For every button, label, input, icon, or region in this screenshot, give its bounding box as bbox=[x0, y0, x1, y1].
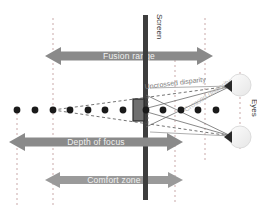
stereoscopic-diagram: Fusion range Screen Uncrossed disparity … bbox=[0, 0, 257, 212]
fusion-range-bar: Fusion range bbox=[45, 47, 213, 65]
eye-top bbox=[229, 74, 251, 96]
comfort-zone-bar: Comfort zone bbox=[45, 172, 183, 188]
depth-dot bbox=[102, 107, 109, 114]
depth-dot bbox=[85, 107, 92, 114]
eyes-group bbox=[224, 74, 251, 148]
depth-dot bbox=[160, 107, 167, 114]
eye-bottom bbox=[229, 126, 251, 148]
depth-dot bbox=[50, 107, 57, 114]
depth-dot bbox=[178, 107, 185, 114]
depth-of-focus-label: Depth of focus bbox=[67, 137, 125, 147]
comfort-zone-label: Comfort zone bbox=[87, 175, 140, 185]
depth-dot bbox=[67, 107, 74, 114]
depth-dot bbox=[120, 107, 127, 114]
depth-dot bbox=[213, 107, 220, 114]
depth-dot bbox=[32, 107, 39, 114]
screen-line-overlay bbox=[143, 150, 148, 200]
depth-dot bbox=[143, 107, 150, 114]
depth-dot bbox=[195, 107, 202, 114]
diagram-canvas: Fusion range Screen Uncrossed disparity … bbox=[0, 0, 257, 212]
uncrossed-disparity-label: Uncrossed disparity bbox=[144, 75, 206, 90]
screen-label: Screen bbox=[155, 14, 164, 39]
eyes-label: Eyes bbox=[250, 99, 257, 117]
screen-line-overlay-mid bbox=[143, 15, 148, 60]
depth-of-focus-bar: Depth of focus bbox=[9, 133, 183, 151]
depth-dot bbox=[14, 107, 21, 114]
stimulus-box bbox=[133, 99, 144, 121]
